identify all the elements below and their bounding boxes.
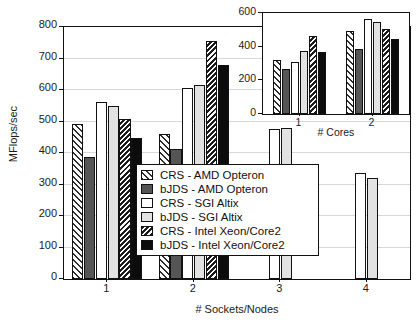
legend-item-label: CRS - AMD Opteron — [160, 169, 264, 181]
inset-y-tick-label: 0 — [224, 106, 256, 118]
y-tick-label: 0 — [15, 270, 57, 282]
inset-y-tick-label: 200 — [224, 72, 256, 84]
legend-item: bJDS - Intel Xeon/Core2 — [141, 238, 314, 252]
inset-bar — [346, 31, 354, 114]
x-tick-label: 2 — [173, 282, 213, 294]
legend-swatch-icon — [141, 212, 153, 222]
y-tick-label: 300 — [15, 176, 57, 188]
inset-x-tick-mark — [299, 113, 300, 116]
inset-bar — [291, 62, 299, 114]
inset-x-tick-mark — [372, 113, 373, 116]
inset-bar — [391, 39, 399, 114]
bar — [355, 173, 366, 279]
inset-bar — [309, 36, 317, 114]
legend-item-label: bJDS - Intel Xeon/Core2 — [160, 239, 285, 251]
bar — [108, 106, 119, 279]
legend-item-label: CRS - SGI Altix — [160, 197, 239, 209]
y-tick-label: 600 — [15, 81, 57, 93]
legend-swatch-icon — [141, 170, 153, 180]
legend-item: bJDS - AMD Opteron — [141, 182, 314, 196]
legend-swatch-icon — [141, 240, 153, 250]
y-tick-label: 400 — [15, 144, 57, 156]
y-axis-label: MFlops/sec — [7, 99, 19, 169]
legend-swatch-icon — [141, 184, 153, 194]
legend-item-label: bJDS - AMD Opteron — [160, 183, 268, 195]
legend-item-label: CRS - Intel Xeon/Core2 — [160, 225, 281, 237]
inset-bar — [273, 60, 281, 114]
inset-bar — [364, 19, 372, 114]
legend-swatch-icon — [141, 198, 153, 208]
inset-bar — [373, 22, 381, 114]
legend-item: bJDS - SGI Altix — [141, 210, 314, 224]
y-tick-label: 700 — [15, 50, 57, 62]
x-tick-mark — [366, 278, 367, 282]
x-tick-label: 1 — [86, 282, 126, 294]
bar — [96, 102, 107, 279]
figure-canvas: MFlops/sec 0100200300400500600700800 123… — [0, 0, 419, 326]
inset-bar — [300, 51, 308, 114]
inset-bar — [282, 69, 290, 114]
legend-item: CRS - Intel Xeon/Core2 — [141, 224, 314, 238]
bar — [72, 124, 83, 279]
inset-bar-series-layer — [263, 13, 409, 114]
legend-item-label: bJDS - SGI Altix — [160, 211, 242, 223]
x-tick-mark — [193, 278, 194, 282]
inset-chart: 0200400600 12 # Cores — [224, 4, 416, 140]
inset-bar — [382, 29, 390, 115]
x-tick-mark — [106, 278, 107, 282]
y-tick-label: 500 — [15, 113, 57, 125]
legend: CRS - AMD OpteronbJDS - AMD OpteronCRS -… — [136, 164, 319, 256]
y-tick-label: 200 — [15, 207, 57, 219]
inset-plot-area — [262, 12, 410, 115]
x-tick-label: 4 — [346, 282, 386, 294]
legend-swatch-icon — [141, 226, 153, 236]
legend-item: CRS - AMD Opteron — [141, 168, 314, 182]
bar — [84, 157, 95, 279]
x-tick-label: 3 — [259, 282, 299, 294]
inset-bar — [318, 52, 326, 114]
inset-y-tick-label: 600 — [224, 5, 256, 17]
inset-bar — [355, 49, 363, 114]
x-axis-label: # Sockets/Nodes — [63, 303, 411, 315]
y-tick-label: 800 — [15, 18, 57, 30]
bar — [367, 178, 378, 279]
inset-y-tick-label: 400 — [224, 39, 256, 51]
legend-item: CRS - SGI Altix — [141, 196, 314, 210]
y-tick-label: 100 — [15, 239, 57, 251]
inset-x-axis-label: # Cores — [262, 126, 410, 138]
x-tick-mark — [279, 278, 280, 282]
bar — [119, 119, 130, 279]
